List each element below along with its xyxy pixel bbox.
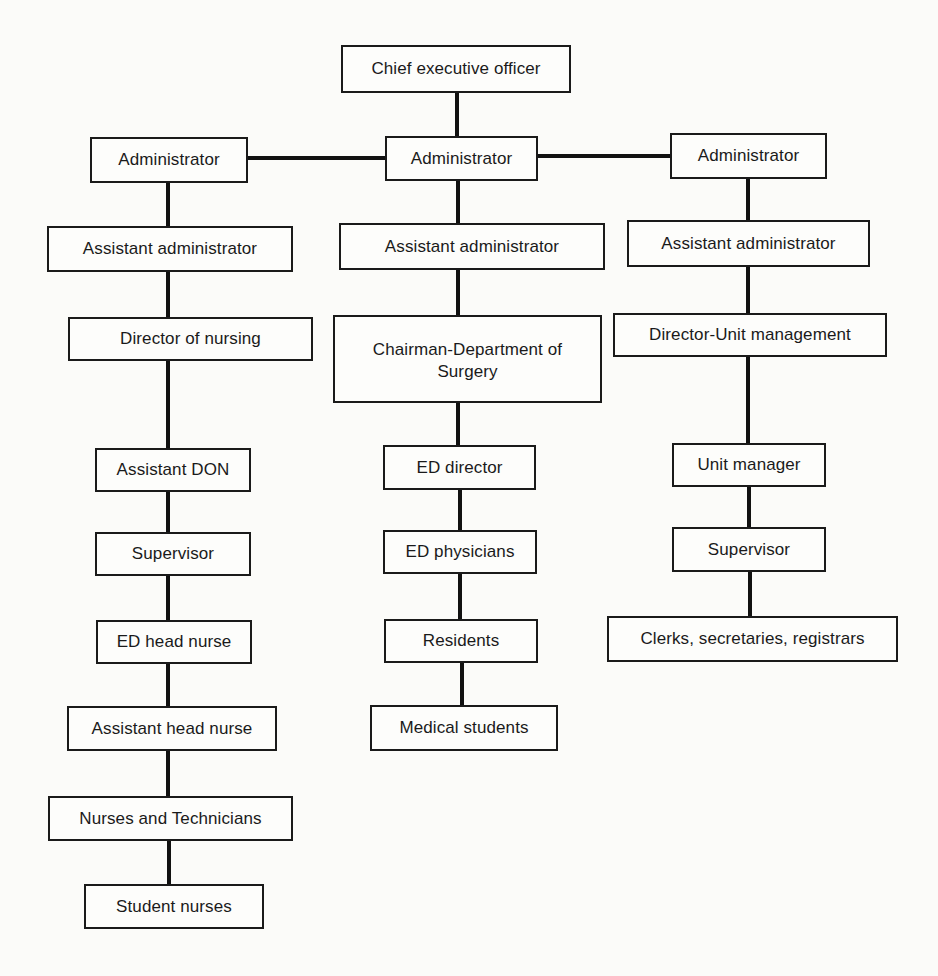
- node-residents: Residents: [384, 619, 538, 663]
- node-director-unit-management: Director-Unit management: [613, 313, 887, 357]
- connector-ceo-admin: [455, 92, 459, 136]
- node-assistant-administrator-medical: Assistant administrator: [339, 223, 605, 270]
- connector: [746, 356, 750, 443]
- connector: [746, 266, 750, 313]
- node-nurses-and-technicians: Nurses and Technicians: [48, 796, 293, 841]
- node-unit-manager: Unit manager: [672, 443, 826, 487]
- connector: [166, 750, 170, 796]
- connector: [456, 180, 460, 223]
- connector: [460, 662, 464, 705]
- connector: [166, 271, 170, 317]
- connector: [458, 489, 462, 530]
- connector-admin-horizontal-right: [537, 154, 670, 158]
- node-administrator-medical: Administrator: [385, 136, 538, 181]
- connector: [458, 573, 462, 619]
- node-administrator-nursing: Administrator: [90, 137, 248, 183]
- node-administrator-unit: Administrator: [670, 133, 827, 179]
- connector: [746, 178, 750, 220]
- node-assistant-don: Assistant DON: [95, 448, 251, 492]
- connector: [748, 571, 752, 616]
- node-assistant-administrator-unit: Assistant administrator: [627, 220, 870, 267]
- connector: [456, 402, 460, 445]
- connector: [747, 486, 751, 527]
- node-assistant-administrator-nursing: Assistant administrator: [47, 226, 293, 272]
- connector: [166, 663, 170, 706]
- connector: [456, 269, 460, 315]
- connector: [167, 840, 171, 884]
- connector: [166, 360, 170, 448]
- connector: [166, 492, 170, 532]
- node-assistant-head-nurse: Assistant head nurse: [67, 706, 277, 751]
- node-clerks-secretaries-registrars: Clerks, secretaries, registrars: [607, 616, 898, 662]
- node-ed-head-nurse: ED head nurse: [96, 620, 252, 664]
- connector: [166, 183, 170, 226]
- node-medical-students: Medical students: [370, 705, 558, 751]
- node-supervisor-unit: Supervisor: [672, 527, 826, 572]
- node-chief-executive-officer: Chief executive officer: [341, 45, 571, 93]
- node-ed-director: ED director: [383, 445, 536, 490]
- node-director-of-nursing: Director of nursing: [68, 317, 313, 361]
- connector-admin-horizontal-left: [248, 156, 385, 160]
- node-supervisor-nursing: Supervisor: [95, 532, 251, 576]
- node-chairman-department-of-surgery: Chairman-Department of Surgery: [333, 315, 602, 403]
- connector: [166, 575, 170, 620]
- node-student-nurses: Student nurses: [84, 884, 264, 929]
- node-ed-physicians: ED physicians: [383, 530, 537, 574]
